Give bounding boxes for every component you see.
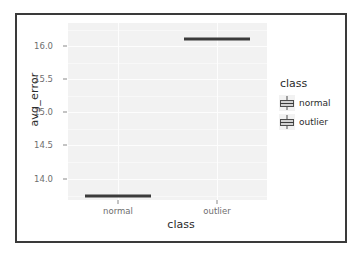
y-tick-mark-15-0: [63, 112, 67, 113]
gridline-minor-15-75: [68, 63, 267, 64]
chart-plot-root: avg_error 16.0 15.5 15.0 14.5 14.0: [17, 15, 345, 241]
vgridline-normal: [118, 23, 119, 200]
gridline-minor-14-25: [68, 162, 267, 163]
legend-item-normal[interactable]: normal: [279, 94, 349, 112]
x-tick-label-normal: normal: [78, 206, 158, 216]
y-tick-mark-15-5: [63, 79, 67, 80]
y-tick-label-14-0: 14.0: [13, 174, 53, 184]
gridline-major-15-0: [68, 112, 267, 113]
y-tick-mark-14-0: [63, 179, 67, 180]
gridline-major-14-0: [68, 179, 267, 180]
gridline-major-14-5: [68, 145, 267, 146]
x-tick-mark-outlier: [217, 200, 218, 204]
boxplot-outlier: [184, 38, 250, 41]
gridline-major-15-5: [68, 79, 267, 80]
legend-label-normal: normal: [299, 98, 331, 108]
y-tick-mark-16-0: [63, 46, 67, 47]
x-tick-label-outlier: outlier: [177, 206, 257, 216]
figure-frame: avg_error 16.0 15.5 15.0 14.5 14.0: [15, 13, 347, 243]
legend-item-outlier[interactable]: outlier: [279, 113, 349, 131]
x-axis-title: class: [17, 218, 345, 231]
gridline-minor-16-25: [68, 30, 267, 31]
y-tick-mark-14-5: [63, 145, 67, 146]
gridline-minor-15-25: [68, 96, 267, 97]
y-tick-label-16-0: 16.0: [13, 41, 53, 51]
chart-legend: class normal outlier: [279, 77, 349, 132]
legend-label-outlier: outlier: [299, 117, 328, 127]
vgridline-outlier: [217, 23, 218, 200]
boxplot-key-icon: [279, 95, 295, 111]
y-axis-title: avg_error: [28, 45, 41, 155]
gridline-minor-14-75: [68, 129, 267, 130]
x-tick-mark-normal: [118, 200, 119, 204]
plot-panel: [68, 23, 267, 200]
y-tick-label-14-5: 14.5: [13, 140, 53, 150]
boxplot-key-icon: [279, 114, 295, 130]
y-tick-label-15-5: 15.5: [13, 74, 53, 84]
legend-title: class: [279, 77, 349, 90]
boxplot-normal: [85, 195, 151, 198]
gridline-major-16-0: [68, 46, 267, 47]
y-tick-label-15-0: 15.0: [13, 107, 53, 117]
